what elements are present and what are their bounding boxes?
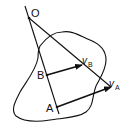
velocity-vector-A bbox=[57, 87, 111, 107]
label-A: A bbox=[46, 102, 54, 114]
label-O: O bbox=[31, 7, 40, 19]
line-O-A bbox=[25, 6, 59, 114]
velocity-vector-B bbox=[47, 65, 82, 75]
diagram-canvas: O B A v B v A bbox=[0, 0, 126, 126]
point-B-dot bbox=[46, 74, 49, 77]
label-B: B bbox=[37, 69, 44, 81]
point-A-dot bbox=[56, 106, 59, 109]
label-vA-subscript: A bbox=[115, 84, 120, 91]
diagram-figure: O B A v B v A bbox=[0, 0, 126, 126]
rigid-body-outline bbox=[13, 32, 106, 122]
label-vB-subscript: B bbox=[88, 61, 93, 68]
point-O-dot bbox=[28, 17, 31, 20]
